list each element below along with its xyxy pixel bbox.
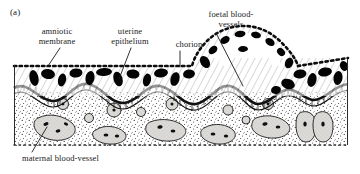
label-amniotic-membrane: amniotic membrane [27,27,87,46]
label-uterine-epithelium: uterine epithelium [97,27,163,46]
label-maternal-blood-vessel: maternal blood-vessel [22,154,142,164]
label-chorion: chorion [168,40,210,50]
label-foetal-blood-vessels-line2: vessels [193,20,269,30]
label-foetal-blood-vessels: foetal blood- vessels [193,10,269,29]
figure-root: (a) amniotic membrane uterine epithelium… [0,0,360,174]
amniotic-membrane-leader [48,48,60,66]
label-uterine-epithelium-line2: epithelium [97,37,163,47]
panel-letter: (a) [10,8,20,18]
label-amniotic-membrane-line2: membrane [27,37,87,47]
